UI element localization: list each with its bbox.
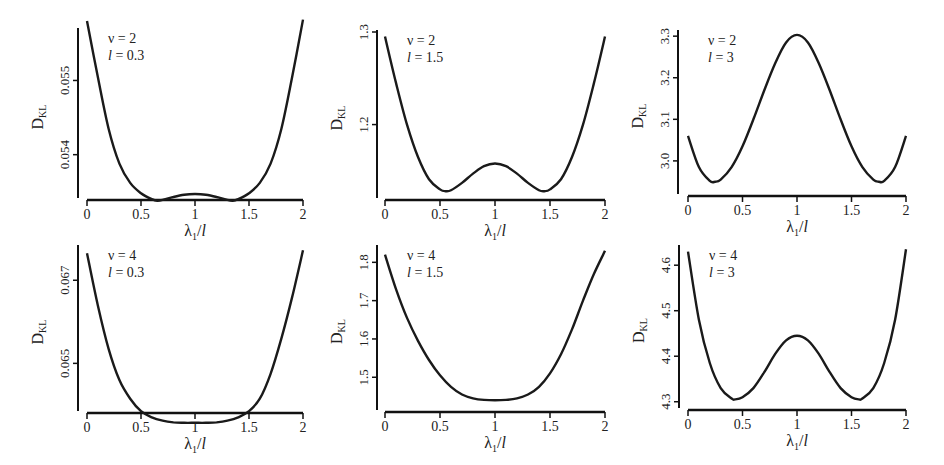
y-axis-label: DKL (629, 104, 648, 129)
panel-nu4-l3: 00.511.524.34.44.54.6DKLλ1/lν = 4l = 3 (630, 245, 910, 452)
x-tick-label: 0 (382, 207, 389, 222)
x-tick-label: 0.5 (734, 417, 752, 432)
annotation-nu: ν = 4 (709, 248, 737, 263)
y-tick-label: 1.3 (356, 24, 371, 40)
x-tick-label: 1 (794, 203, 801, 218)
x-axis-label: λ1/l (786, 218, 808, 238)
x-tick-label: 2 (903, 417, 910, 432)
x-tick-label: 1.5 (240, 207, 258, 222)
panel-nu4-l0.3: 00.511.520.0650.067DKLλ1/lν = 4l = 0.3 (29, 245, 307, 455)
y-tick-label: 1.7 (356, 292, 371, 309)
y-tick-label: 0.054 (57, 140, 72, 170)
annotation-nu: ν = 4 (108, 248, 136, 263)
y-tick-label: 4.3 (658, 394, 673, 410)
y-tick-label: 1.6 (356, 330, 371, 347)
annotation-l: l = 0.3 (108, 48, 144, 63)
x-tick-label: 0.5 (431, 207, 449, 222)
x-tick-label: 2 (300, 207, 307, 222)
x-tick-label: 0.5 (132, 420, 150, 435)
x-tick-label: 1.5 (240, 420, 258, 435)
x-tick-label: 1.5 (843, 203, 861, 218)
annotation-nu: ν = 2 (108, 31, 136, 46)
y-tick-label: 4.5 (658, 303, 673, 319)
x-tick-label: 0 (685, 203, 692, 218)
x-tick-label: 0 (382, 419, 389, 434)
y-axis-label: DKL (29, 320, 48, 345)
x-axis-label: λ1/l (484, 434, 506, 454)
y-axis-label: DKL (328, 106, 347, 131)
x-tick-label: 1.5 (541, 419, 559, 434)
data-curve (87, 20, 303, 201)
x-tick-label: 1.5 (541, 207, 559, 222)
x-tick-label: 0 (84, 420, 91, 435)
x-tick-label: 2 (300, 420, 307, 435)
y-tick-label: 0.065 (57, 349, 72, 378)
x-tick-label: 0.5 (734, 203, 752, 218)
annotation-l: l = 1.5 (407, 265, 443, 280)
annotation-l: l = 3 (708, 50, 734, 65)
y-axis-label: DKL (29, 105, 48, 130)
y-tick-label: 4.6 (658, 257, 673, 274)
x-axis-label: λ1/l (484, 222, 506, 242)
x-tick-label: 0.5 (431, 419, 449, 434)
x-tick-label: 1.5 (843, 417, 861, 432)
y-tick-label: 0.055 (57, 66, 72, 95)
y-tick-label: 3.2 (657, 70, 672, 86)
x-axis-label: λ1/l (184, 222, 206, 242)
x-tick-label: 0 (685, 417, 692, 432)
annotation-nu: ν = 2 (708, 33, 736, 48)
x-tick-label: 0 (84, 207, 91, 222)
y-tick-label: 0.067 (57, 265, 72, 295)
y-axis-label: DKL (630, 318, 649, 343)
annotation-l: l = 1.5 (407, 50, 443, 65)
panel-nu2-l3: 00.511.523.03.13.23.3DKLλ1/lν = 2l = 3 (629, 28, 910, 238)
panel-nu4-l1.5: 00.511.521.51.61.71.8DKLλ1/lν = 4l = 1.5 (328, 245, 609, 454)
y-tick-label: 3.3 (657, 28, 672, 44)
y-tick-label: 3.1 (657, 111, 672, 127)
x-tick-label: 2 (602, 207, 609, 222)
figure-grid: 00.511.520.0540.055DKLλ1/lν = 2l = 0.3 0… (0, 0, 944, 465)
y-axis-label: DKL (328, 319, 347, 344)
annotation-nu: ν = 2 (407, 33, 435, 48)
x-tick-label: 2 (903, 203, 910, 218)
y-tick-label: 4.4 (658, 348, 673, 365)
annotation-nu: ν = 4 (407, 248, 435, 263)
x-tick-label: 1 (492, 207, 499, 222)
x-axis-label: λ1/l (184, 435, 206, 455)
x-tick-label: 1 (192, 207, 199, 222)
y-tick-label: 1.5 (356, 369, 371, 385)
y-tick-label: 1.2 (356, 116, 371, 132)
panel-nu2-l0.3: 00.511.520.0540.055DKLλ1/lν = 2l = 0.3 (29, 20, 307, 242)
annotation-l: l = 0.3 (108, 265, 144, 280)
x-tick-label: 2 (602, 419, 609, 434)
annotation-l: l = 3 (709, 265, 735, 280)
panel-nu2-l1.5: 00.511.521.21.3DKLλ1/lν = 2l = 1.5 (328, 24, 609, 242)
x-tick-label: 1 (492, 419, 499, 434)
x-axis-label: λ1/l (786, 432, 808, 452)
x-tick-label: 1 (794, 417, 801, 432)
y-tick-label: 3.0 (657, 153, 672, 169)
y-tick-label: 1.8 (356, 254, 371, 270)
x-tick-label: 0.5 (132, 207, 150, 222)
